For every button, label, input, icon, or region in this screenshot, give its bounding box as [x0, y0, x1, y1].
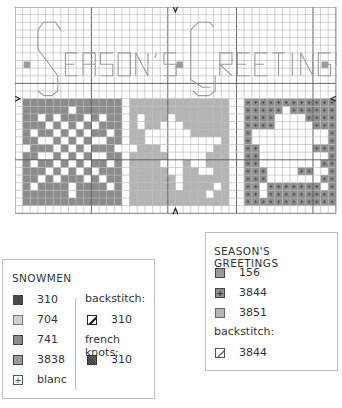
backstitch-item: 3844	[215, 346, 267, 359]
swatch-3838	[13, 355, 23, 365]
backstitch-label: backstitch:	[85, 292, 145, 305]
cross-stitch-chart	[15, 7, 337, 217]
swatch-704	[13, 315, 23, 325]
swatch-310	[13, 295, 23, 305]
code-label: 310	[111, 353, 132, 366]
legend-item-3838: 3838	[13, 353, 65, 366]
code-label: 741	[37, 333, 58, 346]
swatch-3851	[215, 308, 225, 318]
legend-item-3851: 3851	[215, 306, 267, 319]
plus-symbol-icon: +	[13, 375, 23, 385]
backstitch-label: backstitch:	[214, 325, 274, 338]
legend-item-310: 310	[13, 293, 58, 306]
code-label: 3844	[239, 286, 267, 299]
code-label: 704	[37, 313, 58, 326]
swatch-156	[215, 268, 225, 278]
code-label: 3844	[239, 346, 267, 359]
code-label: 3851	[239, 306, 267, 319]
french-knots-item: 310	[87, 353, 132, 366]
legend-divider	[75, 298, 76, 390]
greetings-legend: SEASON'S GREETINGS 156 + 3844 3851 backs…	[205, 232, 338, 371]
backstitch-item: 310	[87, 313, 132, 326]
code-label: 310	[111, 313, 132, 326]
code-label: blanc	[37, 373, 67, 386]
plus-symbol-icon: +	[215, 288, 225, 298]
code-label: 3838	[37, 353, 65, 366]
french-knot-icon	[87, 355, 97, 365]
code-label: 156	[239, 266, 260, 279]
legend-item-704: 704	[13, 313, 58, 326]
backstitch-icon	[215, 348, 225, 358]
swatch-741	[13, 335, 23, 345]
legend-item-3844: + 3844	[215, 286, 267, 299]
legend-item-741: 741	[13, 333, 58, 346]
snowmen-legend: SNOWMEN 310 704 741 3838 + blanc backsti…	[2, 259, 155, 399]
legend-item-156: 156	[215, 266, 260, 279]
snowmen-legend-title: SNOWMEN	[12, 272, 72, 284]
legend-item-blanc: + blanc	[13, 373, 67, 386]
code-label: 310	[37, 293, 58, 306]
backstitch-icon	[87, 315, 97, 325]
